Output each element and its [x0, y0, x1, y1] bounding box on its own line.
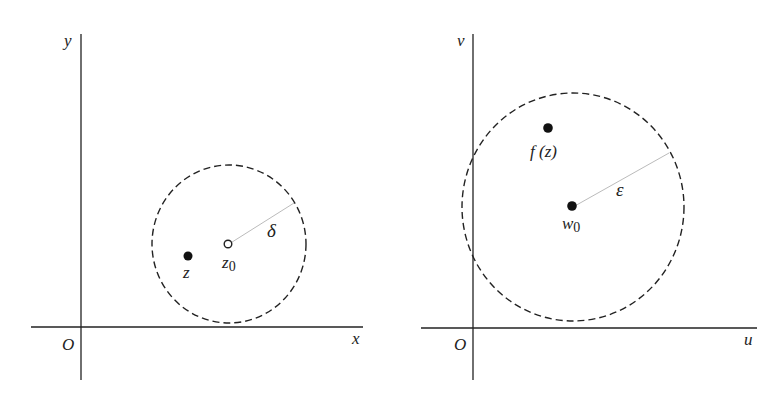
u-axis-label: u	[744, 330, 753, 349]
point-z0	[224, 240, 232, 248]
epsilon-label: ε	[616, 179, 624, 200]
delta-epsilon-diagram: y x O δ z z0 v u O ε f (z) w0	[0, 0, 784, 393]
origin-label: O	[62, 335, 74, 354]
delta-label: δ	[267, 220, 277, 241]
w-plane-panel: v u O ε f (z) w0	[421, 31, 757, 380]
v-axis-label: v	[457, 31, 465, 50]
delta-radius-line	[229, 203, 294, 244]
origin-label: O	[454, 335, 466, 354]
z-plane-panel: y x O δ z z0	[31, 31, 363, 380]
point-z-label: z	[182, 263, 190, 282]
y-axis-label: y	[62, 31, 72, 50]
x-axis-label: x	[351, 329, 360, 348]
point-z0-label: z0	[221, 253, 236, 274]
point-z	[184, 252, 193, 261]
point-w0	[567, 201, 577, 211]
point-fz-label: f (z)	[530, 142, 557, 161]
point-w0-label: w0	[562, 214, 580, 235]
point-fz	[543, 123, 553, 133]
